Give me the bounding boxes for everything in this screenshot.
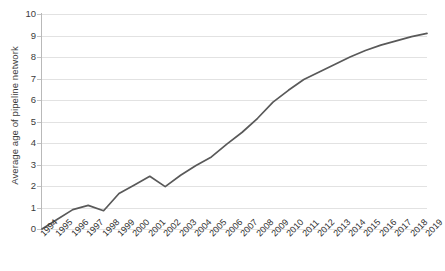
data-series-line <box>42 14 427 229</box>
y-tick-label: 6 <box>10 95 36 105</box>
y-tick-label: 0 <box>10 224 36 234</box>
y-tick-label: 3 <box>10 160 36 170</box>
y-tick-label: 2 <box>10 181 36 191</box>
y-tick-label: 4 <box>10 138 36 148</box>
y-tick-label: 1 <box>10 203 36 213</box>
y-tick-label: 10 <box>10 9 36 19</box>
y-tick-label: 5 <box>10 117 36 127</box>
y-tick-label: 9 <box>10 31 36 41</box>
y-tick-label: 7 <box>10 74 36 84</box>
series-polyline <box>42 33 427 229</box>
y-tick-label: 8 <box>10 52 36 62</box>
plot-area <box>42 14 427 229</box>
